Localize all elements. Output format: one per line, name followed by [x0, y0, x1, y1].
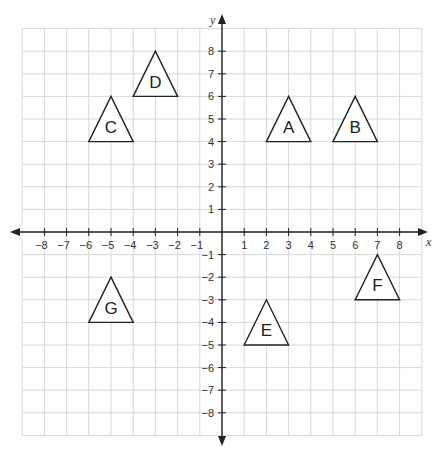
y-tick-label: 2: [208, 181, 214, 193]
x-tick-label: −8: [35, 239, 48, 251]
x-tick-label: 5: [330, 239, 336, 251]
axes: xy: [10, 13, 432, 446]
x-tick-label: −7: [57, 239, 70, 251]
y-tick-label: 1: [208, 203, 214, 215]
x-tick-label: 8: [397, 239, 403, 251]
y-tick-label: 7: [208, 68, 214, 80]
y-tick-label: 5: [208, 113, 214, 125]
triangle-label: F: [372, 276, 382, 295]
x-tick-label: −3: [146, 239, 159, 251]
y-tick-label: −3: [201, 294, 214, 306]
x-tick-label: −2: [168, 239, 181, 251]
y-tick-label: −5: [201, 339, 214, 351]
y-tick-label: −6: [201, 362, 214, 374]
x-tick-label: −5: [102, 239, 115, 251]
y-axis-label: y: [209, 13, 216, 27]
x-tick-label: 2: [263, 239, 269, 251]
y-tick-label: −4: [201, 316, 214, 328]
triangle-label: E: [261, 321, 272, 340]
triangle-label: A: [283, 118, 295, 137]
y-tick-label: −2: [201, 271, 214, 283]
x-tick-label: −6: [80, 239, 93, 251]
x-tick-label: 1: [241, 239, 247, 251]
x-tick-label: 7: [374, 239, 380, 251]
y-tick-label: −7: [201, 384, 214, 396]
x-tick-label: 3: [286, 239, 292, 251]
x-axis-label: x: [425, 235, 432, 249]
triangle-label: G: [104, 299, 117, 318]
triangle-label: D: [149, 73, 161, 92]
y-tick-label: 3: [208, 158, 214, 170]
y-tick-label: 8: [208, 45, 214, 57]
triangle-label: B: [350, 118, 361, 137]
y-tick-label: −1: [201, 249, 214, 261]
coordinate-plane: xy −8−7−6−5−4−3−2−11234567887654321−1−2−…: [0, 0, 444, 451]
y-axis-bottom-arrow-icon: [218, 436, 226, 446]
y-tick-label: 4: [208, 136, 214, 148]
x-tick-label: 6: [352, 239, 358, 251]
x-tick-label: 4: [308, 239, 314, 251]
x-axis-left-arrow-icon: [10, 228, 20, 236]
y-tick-label: 6: [208, 90, 214, 102]
x-tick-label: −4: [124, 239, 137, 251]
y-tick-label: −8: [201, 407, 214, 419]
y-axis-top-arrow-icon: [218, 14, 226, 24]
triangle-label: C: [105, 118, 117, 137]
